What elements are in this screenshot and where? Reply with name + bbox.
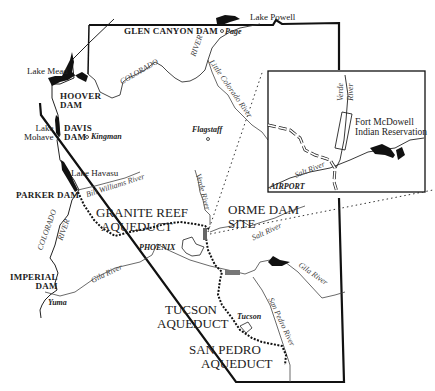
inset-river-label: River [347,83,355,100]
yuma-label: Yuma [48,299,67,307]
fort-mcdowell-reservation-label: Fort McDowellIndian Reservation [355,118,427,137]
glen-canyon-dam-label: GLEN CANYON DAM [124,27,218,36]
davis-dam-label: DAVISDAM [64,124,92,142]
nevada-border [88,25,89,74]
kingman-label: Kingman [91,133,122,141]
tucson-label: Tucson [237,313,261,321]
orme-dam-site-label: ORME DAMSITE [228,203,299,230]
inset-airport-label: AIRPORT [270,183,305,191]
lake-mead-label: Lake Mead [27,67,68,76]
page-label: Page [225,28,241,36]
lake-mohave-label: LakeMohave [24,124,54,142]
inset-verde-label: Verde [337,83,345,101]
lake-powell-label: Lake Powell [250,13,295,22]
parker-dam-label: PARKER DAM [16,191,79,200]
tucson-aqueduct-label: TUCSONAQUEDUCT [157,303,229,330]
granite-reef-aqueduct-label: GRANITE REEFAQUEDUCT [96,206,188,233]
hoover-dam-label: HOOVERDAM [60,92,101,110]
orme-dam-hatch [203,228,207,240]
reservoir-hatch [225,270,240,275]
page-marker [221,30,224,33]
lake-havasu-label: Lake Havasu [71,169,118,178]
phoenix-label: PHOENIX [139,244,175,252]
san-pedro-aqueduct-label: SAN PEDROAQUEDUCT [189,343,273,370]
flagstaff-label: Flagstaff [192,126,222,134]
phoenix-area [182,237,204,256]
tucson-area [240,322,252,333]
gila-river [45,244,345,298]
imperial-dam-label: IMPERIALDAM [10,273,58,291]
flagstaff-marker [207,138,210,141]
lake-powell [216,15,240,25]
gila-reservoir [268,256,290,266]
